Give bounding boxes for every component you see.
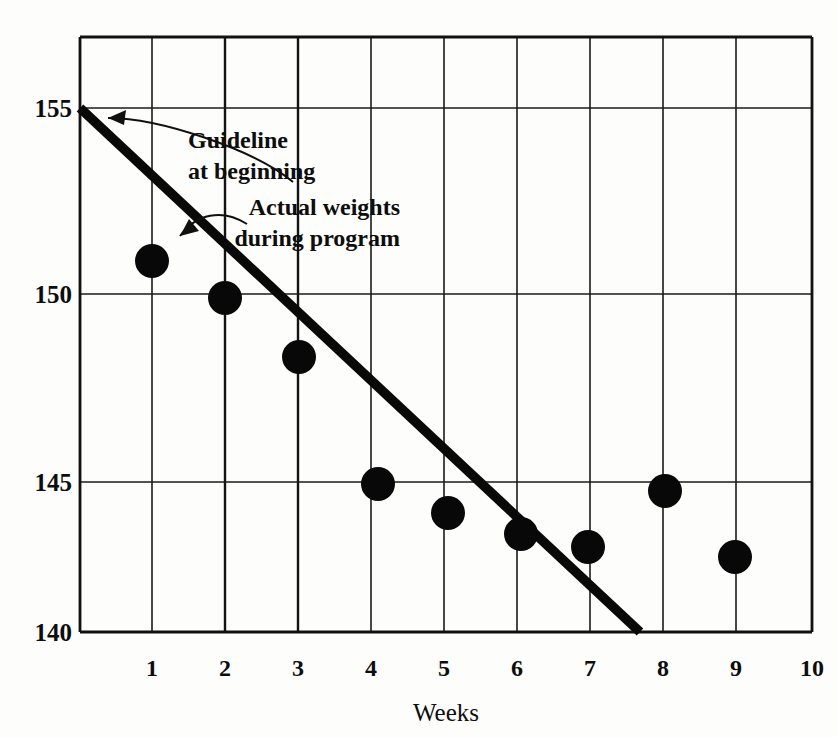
- x-tick-label-6: 6: [511, 655, 523, 681]
- x-tick-label-4: 4: [365, 655, 377, 681]
- data-point-week-6: [504, 517, 538, 551]
- data-point-week-8: [648, 474, 682, 508]
- x-tick-label-8: 8: [657, 655, 669, 681]
- actual-weights-annotation: Actual weights during program: [180, 194, 400, 251]
- data-point-week-3: [282, 340, 316, 374]
- x-tick-labels: 1 2 3 4 5 6 7 8 9 10: [146, 655, 824, 681]
- chart-page: 155 150 145 140 1 2 3 4 5 6 7 8 9 10 Wee…: [0, 0, 837, 737]
- y-tick-label-150: 150: [35, 281, 73, 308]
- guideline-annotation-line-2: at beginning: [188, 158, 315, 184]
- data-point-week-5: [431, 496, 465, 530]
- x-axis-title: Weeks: [413, 699, 479, 726]
- data-point-week-9: [718, 540, 752, 574]
- y-tick-labels: 155 150 145 140: [35, 95, 73, 646]
- x-tick-label-2: 2: [219, 655, 231, 681]
- data-point-week-4: [361, 467, 395, 501]
- x-tick-label-10: 10: [800, 655, 824, 681]
- x-tick-label-5: 5: [438, 655, 450, 681]
- y-tick-label-145: 145: [35, 469, 73, 496]
- data-point-week-1: [135, 244, 169, 278]
- weight-loss-chart-figure: 155 150 145 140 1 2 3 4 5 6 7 8 9 10 Wee…: [0, 0, 837, 737]
- guideline-series-line: [80, 108, 640, 632]
- actual-weights-annotation-line-1: Actual weights: [249, 194, 400, 220]
- actual-weights-annotation-line-2: during program: [234, 225, 400, 251]
- guideline-arrowhead-icon: [108, 110, 126, 125]
- y-tick-label-155: 155: [35, 95, 73, 122]
- x-tick-label-7: 7: [584, 655, 596, 681]
- guideline-annotation-line-1: Guideline: [188, 127, 288, 153]
- data-point-week-2: [208, 281, 242, 315]
- chart-canvas: 155 150 145 140 1 2 3 4 5 6 7 8 9 10 Wee…: [0, 0, 837, 737]
- x-tick-label-9: 9: [730, 655, 742, 681]
- x-tick-label-1: 1: [146, 655, 158, 681]
- y-tick-label-140: 140: [35, 619, 73, 646]
- guideline-annotation: Guideline at beginning: [108, 110, 315, 184]
- data-point-week-7: [571, 530, 605, 564]
- x-tick-label-3: 3: [292, 655, 304, 681]
